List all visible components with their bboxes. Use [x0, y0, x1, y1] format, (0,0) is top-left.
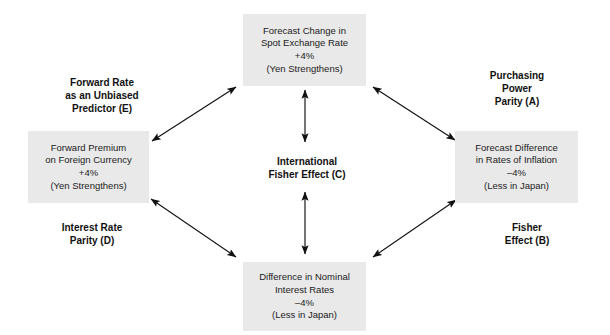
corner-label-line: as an Unbiased: [65, 90, 138, 101]
corner-label-line: Forward Rate: [70, 77, 134, 88]
box-forecast-change-spot-rate: Forecast Change in Spot Exchange Rate +4…: [243, 14, 366, 86]
arrow-top-right-diagonal: [373, 87, 455, 140]
box-line: Spot Exchange Rate: [261, 37, 348, 50]
box-value: +4%: [295, 50, 314, 63]
arrow-bottom-left-diagonal: [151, 199, 236, 257]
corner-label-line: Parity (A): [495, 96, 539, 107]
corner-label-purchasing-power-parity: Purchasing Power Parity (A): [452, 69, 582, 108]
box-line: Forward Premium: [51, 142, 127, 155]
box-line: Difference in Nominal: [259, 271, 350, 284]
box-forecast-difference-inflation: Forecast Difference in Rates of Inflatio…: [455, 131, 578, 203]
arrow-bottom-right-diagonal: [373, 200, 456, 257]
box-line: in Rates of Inflation: [476, 154, 557, 167]
box-line: Interest Rates: [275, 284, 334, 297]
box-value: –4%: [507, 167, 526, 180]
diagram-canvas: Forecast Change in Spot Exchange Rate +4…: [0, 0, 610, 335]
center-label-international-fisher-effect: International Fisher Effect (C): [236, 155, 378, 181]
center-label-line: Fisher Effect (C): [268, 169, 345, 180]
corner-label-fisher-effect: Fisher Effect (B): [462, 221, 592, 247]
corner-label-line: Power: [502, 83, 532, 94]
corner-label-line: Effect (B): [505, 235, 549, 246]
box-line: Forecast Change in: [263, 25, 346, 38]
corner-label-line: Predictor (E): [72, 103, 132, 114]
corner-label-forward-rate-unbiased-predictor: Forward Rate as an Unbiased Predictor (E…: [32, 76, 172, 115]
corner-label-line: Fisher: [512, 222, 542, 233]
box-value: –4%: [295, 297, 314, 310]
box-forward-premium-foreign-currency: Forward Premium on Foreign Currency +4% …: [28, 131, 149, 203]
corner-label-line: Parity (D): [70, 235, 114, 246]
box-note: (Yen Strengthens): [266, 63, 342, 76]
corner-label-line: Purchasing: [490, 70, 544, 81]
box-note: (Less in Japan): [484, 180, 549, 193]
corner-label-line: Interest Rate: [62, 222, 123, 233]
box-line: on Foreign Currency: [45, 154, 132, 167]
corner-label-interest-rate-parity: Interest Rate Parity (D): [22, 221, 162, 247]
box-value: +4%: [79, 167, 98, 180]
box-note: (Yen Strengthens): [50, 180, 126, 193]
box-difference-nominal-interest-rates: Difference in Nominal Interest Rates –4%…: [243, 262, 366, 331]
box-note: (Less in Japan): [272, 309, 337, 322]
center-label-line: International: [277, 156, 337, 167]
box-line: Forecast Difference: [475, 142, 558, 155]
